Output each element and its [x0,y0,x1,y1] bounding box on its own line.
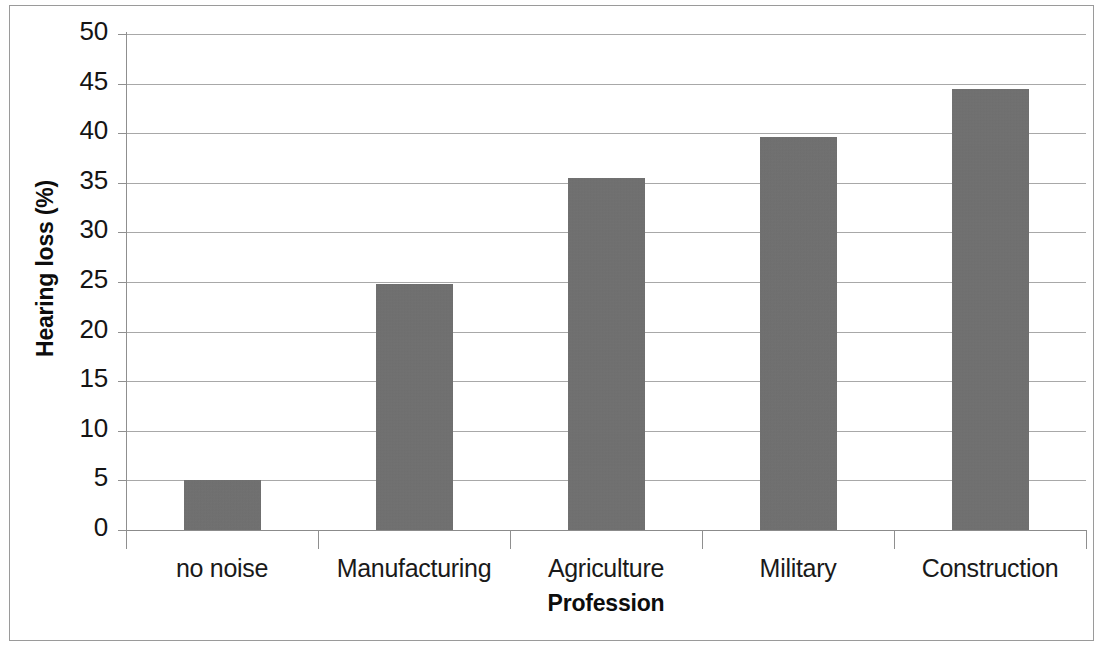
y-axis-tick [118,183,127,184]
y-axis-tick [118,84,127,85]
x-axis-tick [318,530,319,549]
x-axis-tick-label: Military [702,554,894,583]
y-axis-tick [118,381,127,382]
bar [760,137,837,530]
x-axis-title: Profession [126,590,1086,617]
y-axis-tick [118,431,127,432]
gridline [126,133,1086,134]
gridline [126,34,1086,35]
x-axis-tick [894,530,895,549]
y-axis-tick [118,282,127,283]
y-axis-tick-label: 0 [48,512,108,543]
bar [376,284,453,530]
gridline [126,84,1086,85]
x-axis-tick [510,530,511,549]
x-axis-tick-label: Manufacturing [318,554,510,583]
y-axis-title: Hearing loss (%) [32,119,59,419]
x-axis-tick-label: Construction [894,554,1086,583]
chart-figure: 05101520253035404550 no noiseManufacturi… [0,0,1107,651]
x-axis-tick [126,530,127,549]
x-axis-tick-label: no noise [126,554,318,583]
figure-frame-border [9,5,1094,641]
y-axis-tick [118,133,127,134]
bar [184,480,261,530]
x-axis-tick [702,530,703,549]
x-axis-line [126,530,1086,531]
y-axis-tick [118,34,127,35]
x-axis-tick [1086,530,1087,549]
y-axis-tick [118,232,127,233]
bar [568,178,645,530]
y-axis-tick-label: 45 [48,66,108,97]
y-axis-tick-label: 50 [48,16,108,47]
y-axis-tick [118,332,127,333]
bar [952,89,1029,530]
y-axis-tick [118,480,127,481]
x-axis-tick-label: Agriculture [510,554,702,583]
y-axis-tick-label: 5 [48,462,108,493]
